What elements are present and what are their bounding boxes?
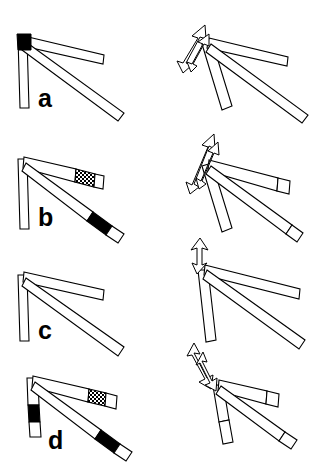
panel-d-right-upper-link-cap — [266, 391, 279, 407]
figure-canvas: a b c d — [0, 0, 317, 472]
panel-a-right-arm — [177, 25, 308, 123]
panel-b-right-arm — [186, 134, 303, 242]
panel-c-left-arm — [18, 272, 124, 356]
panel-a-left-arm — [17, 34, 124, 121]
panel-d-upper-link-tip — [88, 389, 106, 406]
panel-label-d: d — [48, 428, 63, 453]
figure-drawing — [0, 0, 317, 472]
panel-d-right-vertical-link-cap — [219, 420, 233, 444]
panel-d-left-arm — [27, 376, 132, 461]
panel-c-right-arm — [191, 238, 305, 349]
panel-b-upper-link-tip — [75, 169, 95, 187]
panel-a-shoulder-joint-marker — [17, 34, 31, 50]
panel-label-b: b — [38, 205, 53, 230]
panel-d-vertical-link-tip — [28, 405, 40, 422]
panel-d-upper-link-cap — [105, 393, 117, 409]
panel-label-c: c — [38, 318, 52, 343]
panel-b-right-upper-link-cap — [277, 178, 290, 194]
panel-b-upper-link-cap — [94, 174, 104, 189]
panel-d-right-arm — [187, 343, 297, 449]
panel-d-motion-arrow-inner — [196, 352, 217, 391]
panel-label-a: a — [38, 86, 52, 111]
panel-d-vertical-link-cap — [29, 422, 41, 437]
panel-b-left-arm — [18, 157, 124, 243]
